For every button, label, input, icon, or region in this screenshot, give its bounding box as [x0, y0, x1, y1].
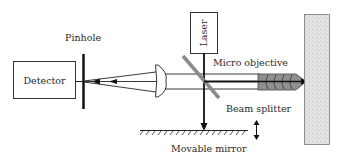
movable-mirror-label: Movable mirror [171, 143, 247, 154]
micro-objective [258, 74, 311, 90]
laser-label: Laser [198, 19, 209, 46]
diagram-canvas: Pinhole Detector L [0, 0, 338, 161]
up-down-arrow-icon [254, 120, 260, 140]
sample [305, 15, 330, 145]
beam-splitter-label: Beam splitter [226, 103, 292, 114]
lens [156, 65, 167, 97]
laser: Laser [191, 13, 218, 54]
detector-label: Detector [23, 75, 66, 86]
arrow-down-icon [201, 123, 208, 131]
optical-setup-diagram: Pinhole Detector L [0, 0, 338, 161]
movable-mirror [140, 131, 248, 136]
micro-objective-label: Micro objective [213, 57, 288, 68]
arrow-icon [109, 79, 117, 84]
pinhole-label: Pinhole [65, 32, 101, 43]
detector: Detector [14, 62, 76, 99]
